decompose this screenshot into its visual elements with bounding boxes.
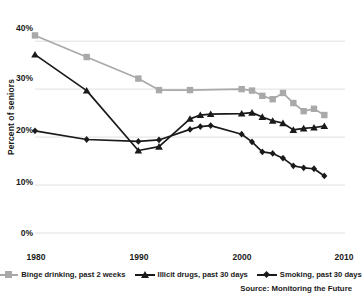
data-point-marker: [290, 100, 296, 106]
legend-swatch-diamond-icon: [257, 270, 277, 279]
x-tick-label-1980: 1980: [16, 253, 56, 262]
data-point-marker: [280, 90, 286, 96]
series-2: [32, 122, 327, 179]
legend-item-illicit-drugs[interactable]: Illicit drugs, past 30 days: [135, 270, 248, 279]
series-0: [32, 32, 328, 118]
data-point-marker: [156, 87, 162, 93]
x-axis: 1980 1990 2000 2010: [0, 253, 360, 267]
data-point-marker: [197, 123, 203, 130]
chart-legend: Binge drinking, past 2 weeks Illicit dru…: [0, 270, 360, 279]
data-point-marker: [187, 87, 193, 93]
legend-item-binge-drinking[interactable]: Binge drinking, past 2 weeks: [0, 270, 126, 279]
x-tick-label-2010: 2010: [324, 253, 364, 262]
data-point-marker: [270, 150, 276, 157]
legend-label-binge-drinking: Binge drinking, past 2 weeks: [21, 270, 125, 279]
data-point-marker: [135, 75, 141, 81]
y-axis-title: Percent of seniors: [6, 62, 16, 172]
data-point-marker: [249, 87, 255, 93]
data-point-marker: [135, 138, 141, 145]
legend-swatch-square-icon: [0, 270, 18, 279]
legend-label-illicit-drugs: Illicit drugs, past 30 days: [158, 270, 248, 279]
data-point-marker: [300, 108, 306, 114]
data-point-marker: [238, 86, 244, 92]
data-point-marker: [321, 112, 327, 118]
data-point-marker: [83, 54, 89, 60]
series-line: [35, 35, 324, 115]
x-tick-label-1990: 1990: [119, 253, 159, 262]
data-point-marker: [311, 106, 317, 112]
data-series-group: [31, 32, 328, 179]
data-point-marker: [301, 164, 307, 171]
data-point-marker: [269, 96, 275, 102]
data-point-marker: [156, 137, 162, 144]
data-point-marker: [259, 93, 265, 99]
y-tick-label-10: 10%: [5, 178, 33, 187]
data-point-marker: [208, 122, 214, 129]
x-tick-label-2000: 2000: [222, 253, 262, 262]
source-note: Source: Monitoring the Future: [240, 284, 352, 293]
series-line: [35, 126, 324, 176]
series-line: [35, 55, 324, 151]
legend-item-smoking[interactable]: Smoking, past 30 days: [257, 270, 362, 279]
legend-label-smoking: Smoking, past 30 days: [280, 270, 362, 279]
legend-swatch-triangle-icon: [135, 270, 155, 279]
data-point-marker: [187, 126, 193, 133]
y-tick-label-40: 40%: [5, 24, 33, 33]
y-tick-label-0: 0%: [5, 229, 33, 238]
gridlines: [35, 41, 345, 233]
